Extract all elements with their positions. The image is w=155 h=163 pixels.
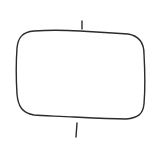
rounded-rectangle-shape[interactable]: [16, 30, 145, 119]
bottom-connector-line: [76, 123, 77, 137]
diagram-canvas: [0, 0, 155, 163]
